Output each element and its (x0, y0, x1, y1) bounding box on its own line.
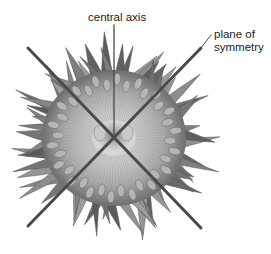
plane-of-symmetry-label-line1: plane of (214, 28, 264, 41)
central-axis-label: central axis (88, 11, 146, 24)
plane-of-symmetry-label-line2: symmetry (214, 41, 264, 54)
plane-of-symmetry-label: plane of symmetry (214, 28, 264, 54)
plane-label-leader (201, 35, 211, 48)
sea-anemone-diagram: central axis plane of symmetry (0, 0, 271, 254)
